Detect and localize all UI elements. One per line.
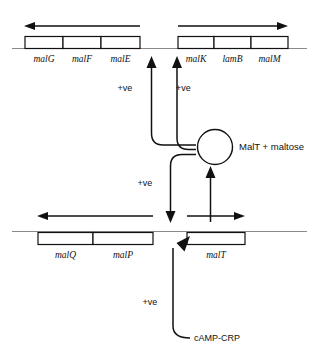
gene-label-malK: malK [186,54,207,64]
regulation-arrow-to-malPQ: +ve [138,155,196,224]
gene-label-malF: malF [72,54,92,64]
regulation-label-malT: +ve [143,297,158,307]
gene-label-lamB: lamB [222,54,242,64]
camp-crp-label: cAMP-CRP [194,333,240,343]
regulation-arrow-crp-to-malT: +ve [143,236,190,338]
gene-label-malQ: malQ [55,250,76,260]
gene-label-malM: malM [258,54,281,64]
regulation-arrow-to-malEFG: +ve [118,56,196,145]
txn-arrow-malPQ [37,212,153,220]
gene-label-malT: malT [206,250,226,260]
txn-arrow-malEFG [24,22,140,30]
malT-node-circle [198,130,233,165]
txn-arrow-malK-lamB-malM [178,22,288,30]
arrow-malT-gene-to-node [206,166,216,222]
gene-malT: malT [187,233,245,261]
gene-label-malE: malE [110,54,130,64]
operon-malEFG: malG malF malE [25,37,140,65]
gene-label-malG: malG [33,54,54,64]
operon-malK-lamB-malM: malK lamB malM [178,37,288,65]
gene-label-malP: malP [113,250,133,260]
operon-malPQ: malQ malP [38,233,153,261]
regulation-label-malK: +ve [176,83,191,93]
regulation-label-malEFG: +ve [118,83,133,93]
malT-node-label: MalT + maltose [239,141,304,152]
mal-regulon-diagram: malG malF malE malK lamB malM +ve [0,0,318,364]
regulation-label-malPQ: +ve [138,178,153,188]
regulation-arrow-to-malK: +ve [172,56,196,150]
malT-maltose-node: MalT + maltose [198,130,305,165]
txn-arrow-malT [187,212,245,220]
